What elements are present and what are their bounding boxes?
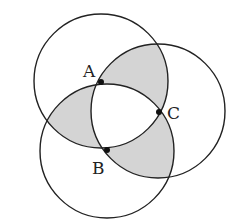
point-a xyxy=(98,79,104,85)
point-c xyxy=(156,109,162,115)
three-circle-diagram: A B C xyxy=(0,0,237,222)
shaded-regions xyxy=(40,44,225,218)
label-c: C xyxy=(167,103,180,123)
point-b xyxy=(104,147,110,153)
label-b: B xyxy=(92,158,105,178)
label-a: A xyxy=(82,61,96,81)
